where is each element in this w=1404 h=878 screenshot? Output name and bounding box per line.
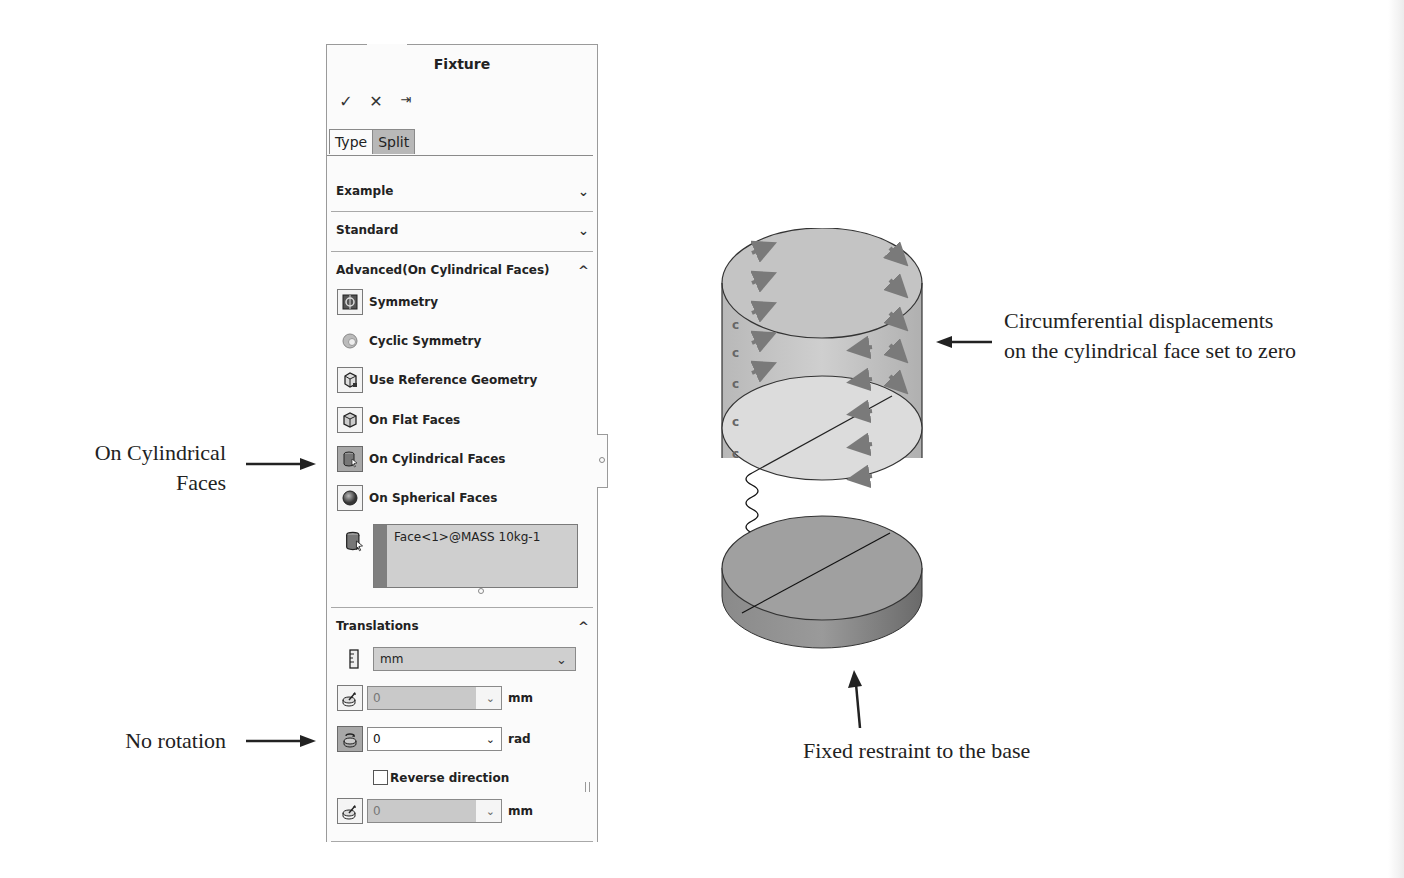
section-standard[interactable]: Standard ⌄ [336, 217, 589, 243]
reverse-direction-checkbox[interactable]: Reverse direction [373, 770, 509, 785]
chevron-up-icon: ^ [578, 263, 589, 278]
option-reference-geometry[interactable]: Use Reference Geometry [337, 367, 537, 393]
svg-text:c: c [732, 318, 739, 332]
face-selection-list[interactable]: Face<1>@MASS 10kg-1 [373, 524, 578, 588]
svg-text:c: c [732, 447, 739, 461]
section-standard-label: Standard [336, 223, 398, 237]
radial-value-input[interactable]: 0 ⌄ [367, 686, 502, 710]
cyclic-symmetry-icon [337, 328, 363, 354]
cancel-x-icon[interactable]: ✕ [367, 92, 385, 111]
option-cyclic-symmetry[interactable]: Cyclic Symmetry [337, 328, 481, 354]
panel-side-handle[interactable] [597, 434, 608, 488]
scrollbar-grip[interactable] [585, 782, 590, 792]
circumferential-direction-icon[interactable] [337, 726, 363, 752]
section-example[interactable]: Example ⌄ [336, 178, 589, 204]
svg-text:c: c [732, 346, 739, 360]
cylinder-model-illustration: ccccc [700, 228, 950, 668]
spherical-faces-icon [337, 485, 363, 511]
radial-direction-icon[interactable] [337, 685, 363, 711]
face-selection-icon [343, 530, 365, 556]
chevron-up-icon: ^ [578, 619, 589, 634]
svg-text:c: c [732, 377, 739, 391]
annotation-no-rotation: No rotation [60, 726, 226, 756]
cylindrical-faces-icon [337, 446, 363, 472]
unit-select[interactable]: mm ⌄ [373, 647, 576, 671]
option-spherical-faces[interactable]: On Spherical Faces [337, 485, 497, 511]
section-advanced-label: Advanced(On Cylindrical Faces) [336, 263, 550, 277]
chevron-down-icon: ⌄ [556, 652, 567, 667]
chevron-down-icon: ⌄ [486, 733, 501, 746]
chevron-down-icon: ⌄ [578, 223, 589, 238]
selected-face[interactable]: Face<1>@MASS 10kg-1 [394, 530, 540, 544]
arrow-up-icon [844, 670, 864, 728]
flat-faces-icon [337, 407, 363, 433]
option-flat-faces[interactable]: On Flat Faces [337, 407, 460, 433]
list-resize-handle[interactable] [478, 588, 484, 594]
action-bar: ✓ ✕ ⇥ [337, 92, 415, 111]
right-edge-shadow [1388, 0, 1404, 878]
svg-text:c: c [732, 415, 739, 429]
section-translations-label: Translations [336, 619, 419, 633]
section-example-label: Example [336, 184, 393, 198]
chevron-down-icon: ⌄ [578, 184, 589, 199]
annotation-fixed-base: Fixed restraint to the base [803, 736, 1103, 766]
ok-check-icon[interactable]: ✓ [337, 92, 355, 111]
pin-icon[interactable]: ⇥ [397, 92, 415, 111]
axial-value-input[interactable]: 0 ⌄ [367, 799, 502, 823]
arrow-left-icon [936, 334, 992, 350]
chevron-down-icon: ⌄ [486, 805, 501, 818]
section-translations[interactable]: Translations ^ [336, 613, 589, 639]
annotation-cylindrical-faces: On Cylindrical Faces [60, 438, 226, 498]
tab-split[interactable]: Split [372, 129, 415, 154]
arrow-right-icon [246, 733, 316, 749]
ruler-icon [347, 649, 361, 673]
tab-bar: Type Split [329, 129, 415, 154]
annotation-circumferential: Circumferential displacements on the cyl… [1004, 306, 1384, 366]
fixture-property-manager: Fixture ✓ ✕ ⇥ Type Split Example ⌄ Stand… [326, 44, 598, 842]
option-symmetry[interactable]: Symmetry [337, 289, 438, 315]
axial-translation-row: 0 ⌄ mm [337, 798, 533, 824]
panel-title: Fixture [327, 56, 597, 72]
arrow-right-icon [246, 456, 316, 472]
selection-color-bar [374, 525, 387, 587]
section-advanced[interactable]: Advanced(On Cylindrical Faces) ^ [336, 257, 589, 283]
tab-type[interactable]: Type [329, 129, 372, 154]
option-cylindrical-faces[interactable]: On Cylindrical Faces [337, 446, 505, 472]
radial-translation-row: 0 ⌄ mm [337, 685, 533, 711]
symmetry-icon [337, 289, 363, 315]
circumferential-value-input[interactable]: 0 ⌄ [367, 727, 502, 751]
chevron-down-icon: ⌄ [486, 692, 501, 705]
checkbox-box[interactable] [373, 770, 388, 785]
circumferential-translation-row: 0 ⌄ rad [337, 726, 531, 752]
reference-geometry-icon [337, 367, 363, 393]
axial-direction-icon[interactable] [337, 798, 363, 824]
